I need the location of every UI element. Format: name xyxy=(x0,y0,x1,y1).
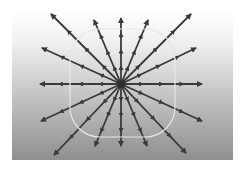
point-charge xyxy=(117,80,125,88)
field-lines-diagram xyxy=(0,0,243,170)
diagram-canvas xyxy=(0,0,243,170)
